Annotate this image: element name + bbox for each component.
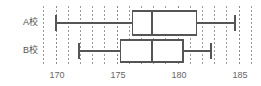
category-label-b: B校 (23, 44, 38, 55)
box-a (132, 11, 196, 35)
tick-label-180: 180 (171, 70, 186, 80)
tick-label-170: 170 (49, 70, 64, 80)
boxplot-figure: A校 B校 170 175 180 185 (0, 0, 261, 86)
boxplot-series-a (56, 11, 235, 35)
tick-label-185: 185 (232, 70, 247, 80)
tick-label-175: 175 (110, 70, 125, 80)
category-label-a: A校 (23, 16, 38, 27)
axis-tick-labels: 170 175 180 185 (49, 70, 247, 80)
boxplot-canvas: A校 B校 170 175 180 185 (0, 0, 261, 86)
boxplot-series-b (79, 40, 211, 62)
